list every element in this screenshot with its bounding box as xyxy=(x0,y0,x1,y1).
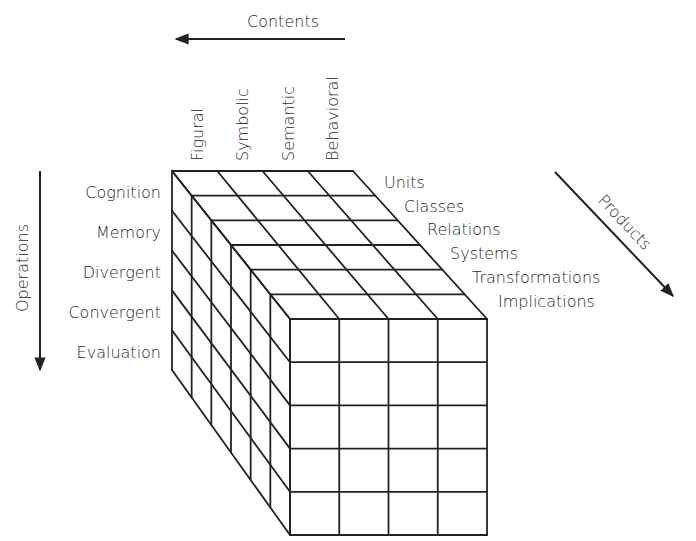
content-label-semantic: Semantic xyxy=(279,86,298,161)
operations-labels: Cognition Memory Divergent Convergent Ev… xyxy=(68,183,161,362)
operations-axis-label: Operations xyxy=(13,224,32,312)
contents-labels: Figural Symbolic Semantic Behavioral xyxy=(188,76,342,161)
structure-of-intellect-diagram: Contents Figural Symbolic Semantic Behav… xyxy=(0,0,696,541)
operation-label-evaluation: Evaluation xyxy=(77,343,161,362)
product-label-relations: Relations xyxy=(427,220,500,239)
contents-axis-label: Contents xyxy=(247,12,319,31)
operation-label-cognition: Cognition xyxy=(85,183,161,202)
product-label-units: Units xyxy=(384,173,425,192)
product-label-classes: Classes xyxy=(404,197,464,216)
content-label-behavioral: Behavioral xyxy=(323,76,342,161)
operations-axis: Operations xyxy=(13,171,40,370)
content-label-symbolic: Symbolic xyxy=(233,88,252,161)
operation-label-memory: Memory xyxy=(96,223,161,242)
product-label-implications: Implications xyxy=(498,292,595,311)
product-label-transformations: Transformations xyxy=(472,268,600,287)
operation-label-convergent: Convergent xyxy=(68,303,161,322)
product-label-systems: Systems xyxy=(450,244,518,263)
operation-label-divergent: Divergent xyxy=(83,263,161,282)
contents-axis: Contents xyxy=(176,12,345,39)
content-label-figural: Figural xyxy=(188,108,207,161)
